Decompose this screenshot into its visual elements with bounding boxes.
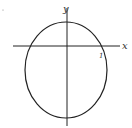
y-axis-label: y: [62, 3, 69, 14]
diagram-canvas: y x 1: [0, 0, 132, 128]
stray-dot: [2, 9, 3, 10]
x-axis-label: x: [122, 40, 128, 51]
tick-label-one: 1: [99, 52, 103, 60]
ellipse-curve: [25, 22, 107, 118]
